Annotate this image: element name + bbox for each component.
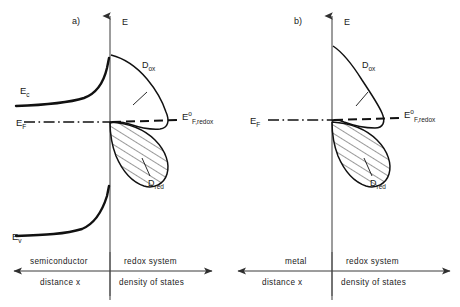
figure-root: a) E Ec Ev EF EoF,redox Dox bbox=[0, 0, 460, 307]
panel-a-dox-leader bbox=[133, 92, 147, 105]
panel-a-ec-label: Ec bbox=[20, 85, 30, 98]
panel-a-ev-label: Ev bbox=[12, 231, 22, 244]
panel-b-label: b) bbox=[294, 16, 302, 26]
panel-a-ef-redox-label: EoF,redox bbox=[182, 110, 214, 125]
energy-diagram-svg: a) E Ec Ev EF EoF,redox Dox bbox=[0, 0, 460, 307]
panel-a-left-axis-label: distance x bbox=[40, 278, 80, 287]
panel-a-dox-label: Dox bbox=[142, 60, 156, 72]
panel-b-right-region-label: redox system bbox=[346, 257, 399, 266]
panel-b-dox-label: Dox bbox=[362, 60, 376, 72]
panel-b-right-axis-label: density of states bbox=[341, 278, 406, 287]
panel-a-dred-fill bbox=[110, 121, 170, 192]
panel-a-left-region-label: semiconductor bbox=[30, 257, 88, 266]
panel-b-dox-leader bbox=[356, 92, 368, 106]
panel-a-right-axis-label: density of states bbox=[119, 278, 184, 287]
panel-b-ef-redox-label: EoF,redox bbox=[404, 108, 436, 123]
panel-b-left-region-label: metal bbox=[285, 257, 307, 266]
panel-a-conduction-band-edge bbox=[16, 58, 109, 106]
panel-a: a) E Ec Ev EF EoF,redox Dox bbox=[12, 16, 214, 300]
panel-b: b) E EF EoF,redox Dox Dred metal redo bbox=[238, 16, 450, 300]
panel-a-right-region-label: redox system bbox=[124, 257, 177, 266]
panel-b-left-axis-label: distance x bbox=[262, 278, 302, 287]
panel-a-energy-axis-label: E bbox=[122, 17, 128, 27]
panel-b-redox-fermi-line bbox=[334, 118, 400, 120]
panel-b-dox-curve bbox=[332, 46, 384, 128]
panel-b-energy-axis-label: E bbox=[344, 17, 350, 27]
panel-a-ef-label: EF bbox=[16, 117, 26, 130]
panel-a-valence-band-edge bbox=[16, 186, 109, 236]
panel-a-label: a) bbox=[72, 16, 80, 26]
panel-b-ef-label: EF bbox=[250, 115, 260, 128]
panel-a-dox-curve bbox=[110, 55, 168, 129]
